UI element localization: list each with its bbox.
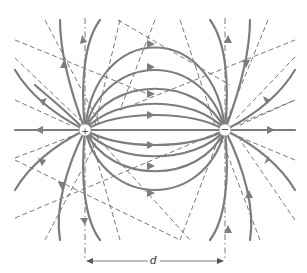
field-lines <box>15 20 295 240</box>
negative-sign: − <box>221 124 229 135</box>
direction-arrows <box>35 35 275 233</box>
dimension-label: d <box>150 254 157 267</box>
negative-charge: − <box>219 124 231 136</box>
positive-sign: + <box>81 126 89 136</box>
positive-charge: + <box>79 124 91 136</box>
dipole-diagram: + − <box>0 0 307 273</box>
